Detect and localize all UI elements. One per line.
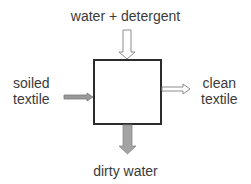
label-line: dirty water: [0, 163, 251, 179]
label-water-detergent: water + detergent: [0, 8, 251, 24]
label-soiled-textile: soiled textile: [13, 75, 50, 107]
label-line: textile: [13, 91, 50, 107]
label-line: clean: [201, 75, 238, 91]
output-arrow-dirty-water-icon: [119, 125, 136, 154]
input-arrow-soiled-textile-icon: [64, 93, 93, 101]
input-arrow-water-detergent-icon: [119, 30, 135, 59]
label-clean-textile: clean textile: [201, 75, 238, 107]
label-line: textile: [201, 91, 238, 107]
process-box: [94, 60, 161, 124]
output-arrow-clean-textile-icon: [162, 84, 190, 94]
label-line: water + detergent: [0, 8, 251, 24]
label-dirty-water: dirty water: [0, 163, 251, 179]
label-line: soiled: [13, 75, 50, 91]
